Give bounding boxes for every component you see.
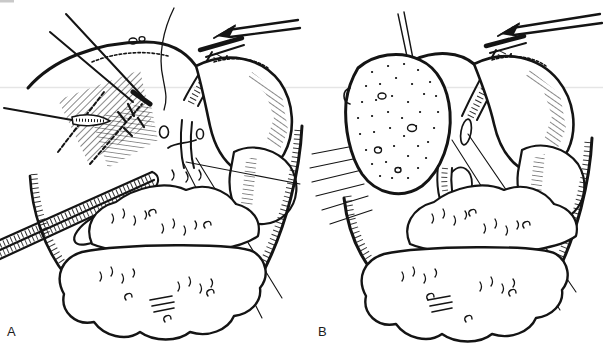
transverse-colon: [362, 247, 568, 341]
scan-smudge: [0, 0, 14, 3]
suture-thread: [161, 8, 174, 110]
vascular-clamp-icon: [200, 20, 300, 57]
two-panel-line-drawing: [0, 0, 603, 351]
porta-hepatis-vessels: [160, 120, 204, 182]
transverse-colon: [60, 245, 266, 339]
cut-liver-surface-stippled: [344, 54, 450, 193]
vascular-clamp-icon: [486, 14, 602, 53]
panel-label-a: A: [7, 325, 16, 338]
panel-a-drawing: [0, 8, 302, 340]
panel-b-drawing: [310, 12, 602, 342]
panel-label-b: B: [318, 325, 327, 338]
figure-surgical-illustration: A B: [0, 0, 603, 351]
